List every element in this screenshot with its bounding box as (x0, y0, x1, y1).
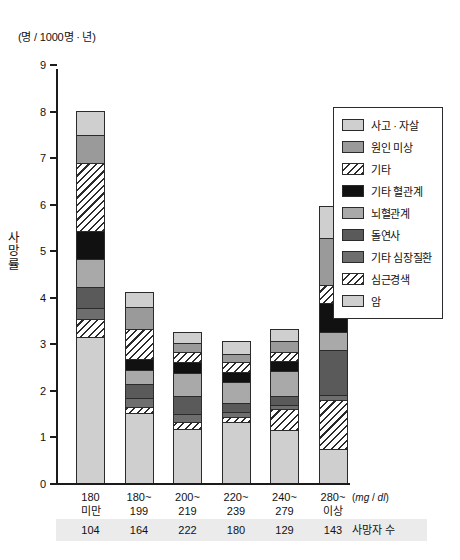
bar-segment[interactable] (271, 397, 298, 405)
legend-label: 심근경색 (371, 271, 410, 287)
stacked-bar[interactable] (222, 341, 251, 483)
stacked-bar[interactable] (270, 329, 299, 483)
legend-item[interactable]: 기타 심장질환 (342, 247, 435, 267)
bar-segment[interactable] (271, 353, 298, 362)
bar-segment[interactable] (271, 342, 298, 352)
bar-segment[interactable] (174, 353, 201, 363)
stacked-bar[interactable] (76, 111, 105, 483)
bar-segment[interactable] (223, 363, 250, 372)
legend-label: 기타 심장질환 (371, 249, 432, 265)
bar-segment[interactable] (223, 355, 250, 363)
legend-label: 돌연사 (371, 227, 400, 243)
bar-segment[interactable] (77, 136, 104, 164)
bar-segment[interactable] (320, 351, 347, 396)
y-axis-title: 사망률 (6, 232, 22, 272)
y-tick-mark (50, 297, 57, 299)
y-tick-mark (50, 64, 57, 66)
y-tick-label: 0 (40, 478, 46, 490)
bar-segment[interactable] (174, 415, 201, 423)
legend-item[interactable]: 돌연사 (342, 225, 435, 245)
legend-swatch (342, 163, 364, 175)
bar-segment[interactable] (126, 371, 153, 385)
y-axis-line (56, 69, 58, 485)
legend-label: 기타 혈관계 (371, 183, 422, 199)
y-tick-label: 1 (40, 431, 46, 443)
bar-segment[interactable] (174, 363, 201, 375)
bar-segment[interactable] (174, 397, 201, 415)
legend-swatch (342, 141, 364, 153)
x-axis-label-line: 239 (209, 504, 263, 518)
y-unit-note: (명 / 1000명 · 년) (18, 28, 96, 44)
bar-segment[interactable] (271, 431, 298, 483)
y-tick-label: 6 (40, 199, 46, 211)
x-axis-label-line: 180 (64, 490, 118, 504)
x-axis-label-line: 이상 (306, 504, 360, 518)
y-tick-label: 4 (40, 292, 46, 304)
y-tick-mark (50, 483, 57, 485)
plot-area: 0123456789 (56, 64, 346, 485)
bar-segment[interactable] (174, 430, 201, 483)
x-axis-label: 220~239 (209, 490, 263, 518)
bar-segment[interactable] (126, 399, 153, 408)
bar-segment[interactable] (223, 383, 250, 404)
death-count-title: 사망자 수 (352, 519, 395, 541)
y-tick-label: 9 (40, 59, 46, 71)
death-count-value: 222 (161, 519, 215, 541)
x-axis-label: 240~279 (258, 490, 312, 518)
bar-segment[interactable] (223, 423, 250, 483)
x-axis-label-line: 279 (258, 504, 312, 518)
bar-segment[interactable] (126, 330, 153, 360)
stacked-bar[interactable] (125, 292, 154, 483)
legend-item[interactable]: 기타 (342, 159, 435, 179)
bar-segment[interactable] (271, 372, 298, 397)
legend-swatch (342, 273, 364, 285)
legend-swatch (342, 207, 364, 219)
legend-item[interactable]: 암 (342, 291, 435, 311)
x-axis-unit: (mg / dl) (352, 492, 389, 503)
x-axis-label-line: 미만 (64, 504, 118, 518)
bar-segment[interactable] (223, 373, 250, 383)
legend-item[interactable]: 원인 미상 (342, 137, 435, 157)
x-axis-label-line: 220~ (209, 490, 263, 504)
x-axis-label-line: 240~ (258, 490, 312, 504)
bar-segment[interactable] (174, 333, 201, 345)
bar-segment[interactable] (223, 404, 250, 413)
x-axis-label: 180미만 (64, 490, 118, 518)
bar-segment[interactable] (77, 164, 104, 233)
y-tick-label: 2 (40, 385, 46, 397)
bar-segment[interactable] (77, 338, 104, 483)
bar-segment[interactable] (126, 414, 153, 483)
bar-segment[interactable] (77, 112, 104, 136)
legend-item[interactable]: 심근경색 (342, 269, 435, 289)
bar-segment[interactable] (126, 308, 153, 330)
bar-segment[interactable] (174, 344, 201, 352)
bar-segment[interactable] (77, 309, 104, 320)
bar-segment[interactable] (223, 342, 250, 355)
legend-item[interactable]: 기타 혈관계 (342, 181, 435, 201)
bar-segment[interactable] (271, 330, 298, 342)
bar-segment[interactable] (77, 232, 104, 260)
bar-segment[interactable] (271, 362, 298, 372)
chart-root: (명 / 1000명 · 년) 사망률 0123456789 180미만180~… (0, 0, 460, 560)
legend-item[interactable]: 뇌혈관계 (342, 203, 435, 223)
death-count-strip: 104164222180129143 사망자 수 (56, 519, 427, 541)
stacked-bar[interactable] (173, 332, 202, 483)
x-axis-label-line: 200~ (161, 490, 215, 504)
x-axis-label: 180~199 (112, 490, 166, 518)
legend-item[interactable]: 사고 · 자살 (342, 115, 435, 135)
bar-segment[interactable] (320, 450, 347, 483)
bar-segment[interactable] (174, 374, 201, 397)
bar-segment[interactable] (320, 333, 347, 351)
death-count-value: 129 (258, 519, 312, 541)
bar-segment[interactable] (77, 288, 104, 309)
bar-segment[interactable] (320, 401, 347, 450)
legend-label: 암 (371, 293, 381, 309)
bar-segment[interactable] (126, 385, 153, 399)
bar-segment[interactable] (126, 293, 153, 308)
bar-segment[interactable] (271, 410, 298, 431)
bar-segment[interactable] (126, 360, 153, 371)
y-tick-mark (50, 343, 57, 345)
death-count-value: 104 (64, 519, 118, 541)
bar-segment[interactable] (77, 320, 104, 339)
bar-segment[interactable] (77, 260, 104, 288)
